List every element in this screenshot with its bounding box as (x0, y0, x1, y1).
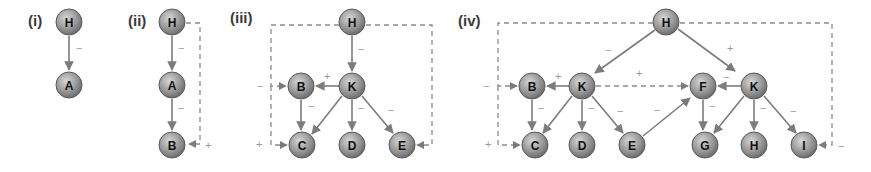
node-label: H (65, 16, 74, 30)
node-label: D (348, 139, 357, 153)
node-h: H (339, 9, 365, 35)
node-e: E (389, 132, 415, 158)
node-label: H (662, 16, 671, 30)
node-label: A (65, 79, 74, 93)
node-c: C (289, 132, 315, 158)
node-label: E (628, 139, 636, 153)
node-k2: K (741, 73, 767, 99)
sign-minus: − (617, 105, 623, 117)
node-d: D (339, 132, 365, 158)
sign-minus: − (605, 44, 611, 56)
sign-minus: − (790, 105, 796, 117)
sign-minus: − (76, 42, 82, 54)
sign-plus: + (727, 42, 733, 54)
sign-plus: + (205, 139, 211, 151)
node-b: B (288, 73, 314, 99)
sign-minus: − (358, 43, 364, 55)
sign-minus: − (308, 100, 314, 112)
node-k1: K (569, 73, 595, 99)
edge-k1-c (543, 96, 572, 133)
sign-plus: + (485, 138, 491, 150)
node-h2: H (741, 132, 767, 158)
edge-k2-g (714, 96, 744, 133)
node-b: B (159, 132, 185, 158)
node-label: K (578, 80, 587, 94)
node-label: B (168, 139, 177, 153)
node-h: H (653, 9, 679, 35)
dashed-edge-h-c (498, 86, 520, 145)
node-label: K (348, 80, 357, 94)
feedback-loop-diagram: (i) − H A (ii) − − + H A B (0, 0, 871, 172)
dashed-edge-h-e (366, 25, 432, 145)
node-label: D (578, 139, 587, 153)
node-h: H (56, 9, 82, 35)
node-label: C (531, 139, 540, 153)
panel-label: (ii) (128, 12, 146, 29)
node-label: B (528, 80, 537, 94)
node-label: K (750, 80, 759, 94)
node-a: A (159, 72, 185, 98)
sign-plus: + (636, 67, 642, 79)
sign-plus: + (324, 70, 330, 82)
sign-minus: − (257, 80, 263, 92)
sign-minus: − (538, 102, 544, 114)
node-k: K (339, 73, 365, 99)
dashed-edge-h-b (186, 23, 200, 144)
node-g: G (692, 132, 718, 158)
node-label: I (802, 139, 805, 153)
sign-minus: − (838, 140, 844, 152)
dashed-edge-h-c (271, 86, 287, 145)
node-label: H (750, 139, 759, 153)
edge-h-k1 (595, 30, 655, 73)
sign-plus: + (555, 70, 561, 82)
panel-label: (iii) (230, 9, 253, 26)
sign-minus: − (358, 102, 364, 114)
sign-minus: − (588, 102, 594, 114)
sign-minus: − (709, 100, 715, 112)
node-b: B (519, 73, 545, 99)
panel-iii: (iii) − + − + − − − H K B (230, 9, 432, 158)
node-f: F (690, 73, 716, 99)
panel-label: (iv) (458, 12, 481, 29)
sign-minus: − (723, 71, 729, 83)
sign-plus: + (256, 138, 262, 150)
edge-k-c (312, 96, 342, 134)
panel-iv: (iv) − + − + − + + − − − − − − − − (458, 9, 844, 158)
panel-ii: (ii) − − + H A B (128, 9, 211, 158)
sign-minus: − (178, 42, 184, 54)
edge-e-f (643, 98, 690, 136)
node-i: I (791, 132, 817, 158)
node-label: F (699, 80, 706, 94)
node-h: H (159, 9, 185, 35)
node-label: B (297, 80, 306, 94)
panel-i: (i) − H A (28, 9, 82, 98)
node-label: E (398, 139, 406, 153)
node-e: E (619, 132, 645, 158)
sign-minus: − (388, 104, 394, 116)
node-label: A (168, 79, 177, 93)
node-c: C (522, 132, 548, 158)
node-label: G (700, 139, 709, 153)
sign-minus: − (178, 102, 184, 114)
node-d: D (569, 132, 595, 158)
panel-label: (i) (28, 12, 42, 29)
sign-minus: − (760, 102, 766, 114)
node-a: A (56, 72, 82, 98)
sign-minus: − (654, 104, 660, 116)
node-label: H (168, 16, 177, 30)
sign-minus: − (483, 80, 489, 92)
node-label: C (298, 139, 307, 153)
node-label: H (348, 16, 357, 30)
